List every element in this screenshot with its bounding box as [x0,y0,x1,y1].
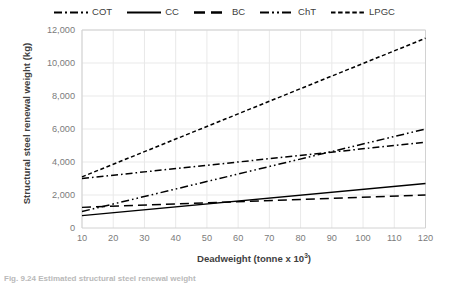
x-axis-tick-label: 90 [327,233,337,243]
x-axis-tick-label: 110 [387,233,402,243]
y-axis-tick-label: 0 [70,223,75,233]
y-axis-tick-label: 6,000 [52,124,75,134]
x-axis-tick-label: 40 [171,233,181,243]
chart-figure: COT CC BC ChT [0,0,449,284]
series-line-cot [82,142,426,178]
y-axis-tick-label: 12,000 [47,25,75,35]
figure-caption: Fig. 9.24 Estimated structural steel ren… [4,274,244,284]
x-axis-tick-label: 60 [233,233,243,243]
x-axis-tick-labels: 102030405060708090100110120 [77,233,433,243]
chart-plot-area: 02,0004,0006,0008,00010,00012,000 102030… [0,0,449,284]
y-axis-tick-label: 10,000 [47,58,75,68]
chart-series-lines [82,38,426,215]
y-axis-tick-label: 2,000 [52,190,75,200]
x-axis-tick-label: 80 [295,233,305,243]
x-axis-tick-label: 10 [77,233,87,243]
x-axis-tick-label: 100 [355,233,370,243]
x-axis-tick-label: 30 [139,233,149,243]
chart-gridlines [82,30,426,228]
y-axis-tick-labels: 02,0004,0006,0008,00010,00012,000 [47,25,75,233]
x-axis-tick-label: 20 [108,233,118,243]
y-axis-tick-label: 4,000 [52,157,75,167]
series-line-bc [82,195,426,207]
x-axis-tick-label: 50 [202,233,212,243]
y-axis-tick-label: 8,000 [52,91,75,101]
x-axis-tick-label: 70 [264,233,274,243]
x-axis-tick-label: 120 [418,233,433,243]
series-line-lpgc [82,38,426,177]
